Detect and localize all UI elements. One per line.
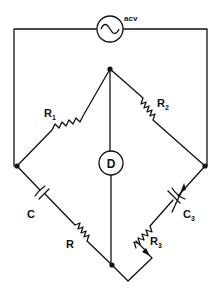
node-left [14, 163, 19, 168]
wire-r2 [110, 69, 205, 166]
node-bottom [109, 262, 114, 267]
wire-c [17, 166, 40, 190]
bridge-circuit-diagram: acv D R1 R2 C R C3 R3 [0, 0, 221, 295]
wire-top-left [14, 29, 97, 166]
label-r3: R3 [150, 235, 162, 249]
label-c3: C3 [183, 208, 195, 222]
label-r: R [66, 238, 74, 250]
r3-wiper-arrowhead [142, 248, 150, 256]
ac-source [97, 16, 123, 42]
capacitor-c3-plate1 [168, 191, 180, 203]
node-top [107, 66, 112, 71]
node-right [202, 163, 207, 168]
wire-r1 [17, 69, 110, 166]
label-r2: R2 [157, 97, 169, 111]
wire-r [45, 194, 112, 265]
source-label: acv [124, 14, 138, 23]
detector: D [99, 151, 123, 175]
label-r1: R1 [44, 107, 56, 121]
detector-label: D [107, 157, 116, 171]
wire-r3-loop [112, 251, 152, 281]
label-c: C [27, 208, 35, 220]
wire-top-right [123, 29, 207, 166]
